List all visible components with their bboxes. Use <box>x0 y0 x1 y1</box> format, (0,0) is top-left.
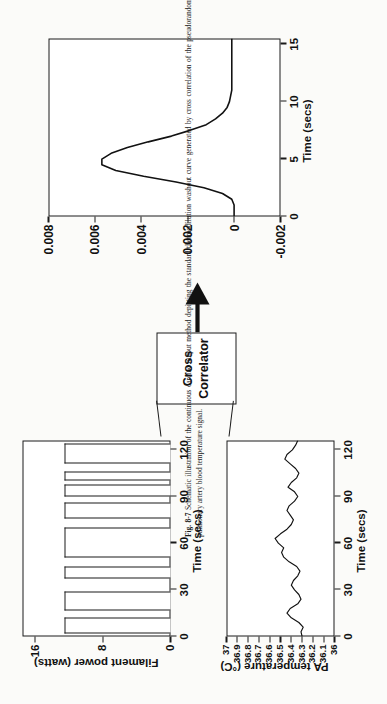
y-tick <box>247 636 248 642</box>
y-tick <box>34 636 35 642</box>
washout-xaxis-title: Time (secs) <box>300 99 312 162</box>
figure-label: Fig. 8-7 <box>183 513 192 538</box>
x-tick-label: 120 <box>341 439 353 459</box>
y-tick <box>169 636 170 642</box>
figure-page: 0306090120 Time (secs) 0816 Filament pow… <box>0 0 387 704</box>
x-tick <box>170 541 176 542</box>
filament-power-bar <box>64 471 170 480</box>
y-tick <box>236 636 237 642</box>
x-tick <box>334 448 340 449</box>
x-tick-label: 60 <box>341 533 353 553</box>
y-tick-label: 0.006 <box>87 224 101 272</box>
y-tick <box>102 636 103 642</box>
y-tick <box>290 636 291 642</box>
x-tick <box>170 495 176 496</box>
y-tick <box>140 216 141 222</box>
washout-trace <box>48 38 280 216</box>
washout-yaxis-ticks: -0.00200.0020.0040.0060.008 <box>48 216 280 272</box>
x-tick-label: 0 <box>341 626 353 646</box>
y-tick-label: 0.004 <box>134 224 148 272</box>
y-tick <box>301 636 302 642</box>
y-tick <box>47 216 48 222</box>
pa-temp-xaxis-title: Time (secs) <box>354 509 366 572</box>
y-tick-label: -0.002 <box>273 224 287 272</box>
x-tick <box>280 100 286 101</box>
y-tick <box>279 636 280 642</box>
x-tick <box>170 588 176 589</box>
filament-bar-group <box>22 440 170 636</box>
x-tick <box>170 448 176 449</box>
x-tick-label: 0 <box>287 206 299 226</box>
figure-caption-text: Schematic illustration of the continuous… <box>183 0 203 537</box>
y-tick <box>323 636 324 642</box>
y-tick <box>279 216 280 222</box>
y-tick <box>258 636 259 642</box>
x-tick <box>334 588 340 589</box>
y-tick <box>312 636 313 642</box>
filament-power-bar <box>64 527 170 557</box>
pa-temp-trace <box>226 440 334 636</box>
y-tick-label: 0.008 <box>41 224 55 272</box>
x-tick <box>334 541 340 542</box>
pa-temperature-panel: 0306090120 Time (secs) 3636.136.236.336.… <box>216 430 386 680</box>
y-tick <box>225 636 226 642</box>
y-tick-label: 36 <box>327 644 338 680</box>
y-tick <box>94 216 95 222</box>
x-tick-label: 30 <box>341 579 353 599</box>
y-tick <box>333 636 334 642</box>
y-tick-label: 0 <box>227 224 241 272</box>
pa-temp-yaxis-ticks: 3636.136.236.336.436.536.636.736.836.937 <box>226 636 334 680</box>
x-tick-label: 30 <box>177 579 189 599</box>
y-tick <box>269 636 270 642</box>
x-tick-label: 90 <box>341 486 353 506</box>
y-tick <box>233 216 234 222</box>
filament-power-bar <box>64 443 170 463</box>
x-tick-label: 0 <box>177 626 189 646</box>
y-tick-label: 0 <box>163 644 175 680</box>
x-tick <box>280 42 286 43</box>
filament-power-bar <box>64 502 170 518</box>
x-tick-label: 15 <box>287 34 299 54</box>
filament-power-bar <box>64 591 170 610</box>
figure-caption: Fig. 8-7 Schematic illustration of the c… <box>182 0 204 537</box>
x-tick-label: 5 <box>287 149 299 169</box>
filament-yaxis-title: Filament power (watts) <box>33 656 158 668</box>
filament-power-bar <box>64 566 170 578</box>
filament-power-bar <box>64 484 170 496</box>
x-tick-label: 10 <box>287 91 299 111</box>
x-tick <box>280 157 286 158</box>
x-tick <box>334 495 340 496</box>
filament-power-bar <box>64 617 170 633</box>
pa-temp-yaxis-title: PA temperature (°C) <box>220 660 328 672</box>
